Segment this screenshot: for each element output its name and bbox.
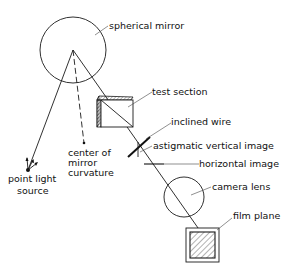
inclined-wire-leader <box>146 123 171 139</box>
center-of-curvature-dot <box>83 142 86 145</box>
ray-to-light-source <box>28 50 73 170</box>
test-section-label: test section <box>152 86 207 97</box>
inclined-wire-label: inclined wire <box>171 116 231 127</box>
spherical-mirror-label: spherical mirror <box>109 20 184 31</box>
center-label-3: curvature <box>68 167 114 178</box>
film-plane-leader <box>217 218 232 230</box>
inclined-wire <box>128 137 150 157</box>
film-plane <box>186 228 219 262</box>
point-light-source-label-2: source <box>17 185 49 196</box>
film-plane-label: film plane <box>233 210 280 221</box>
point-light-source-label-1: point light <box>8 173 57 184</box>
camera-lens <box>164 177 204 217</box>
astigmatic-leader <box>140 146 152 152</box>
horizontal-image-label: horizontal image <box>199 158 279 169</box>
camera-lens-leader <box>191 187 211 195</box>
optical-diagram: spherical mirror point light source cent… <box>0 0 291 274</box>
camera-lens-label: camera lens <box>212 181 270 192</box>
astigmatic-vertical-image-label: astigmatic vertical image <box>153 140 274 151</box>
